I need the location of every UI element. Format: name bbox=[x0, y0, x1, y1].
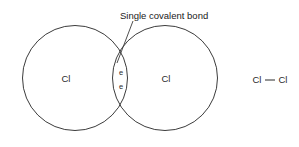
shared-electron-upper: e bbox=[119, 68, 123, 77]
leader-line bbox=[117, 21, 133, 63]
right-atom-label: Cl bbox=[162, 73, 171, 84]
annotation-label: Single covalent bond bbox=[120, 10, 208, 21]
left-atom-circle bbox=[23, 26, 128, 131]
formula-left-symbol: Cl bbox=[253, 74, 262, 85]
left-atom-label: Cl bbox=[62, 73, 71, 84]
covalent-bond-diagram: Single covalent bond Cl Cl e e Cl Cl bbox=[0, 0, 299, 147]
diagram-canvas: Single covalent bond Cl Cl e e Cl Cl bbox=[0, 0, 299, 147]
formula-right-symbol: Cl bbox=[279, 74, 288, 85]
shared-electron-lower: e bbox=[119, 82, 123, 91]
